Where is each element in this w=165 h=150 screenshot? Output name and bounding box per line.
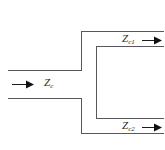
cavity-back-wall <box>97 47 165 119</box>
label-input-impedance: Zc <box>44 77 53 90</box>
waveguide-junction-figure: Zc Zc1 Zc2 <box>0 0 164 150</box>
label-upper-branch-impedance-subscript: c1 <box>128 38 135 46</box>
input-propagation-arrow <box>12 81 34 89</box>
upper-output-propagation-arrow <box>142 37 162 45</box>
label-upper-branch-impedance: Zc1 <box>122 33 135 46</box>
label-lower-branch-impedance: Zc2 <box>122 120 135 133</box>
waveguide-geometry-svg <box>0 0 164 150</box>
label-input-impedance-subscript: c <box>50 82 53 90</box>
outer-wall-lower <box>8 99 164 134</box>
label-lower-branch-impedance-subscript: c2 <box>128 125 135 133</box>
outer-wall-upper <box>8 32 164 71</box>
lower-output-propagation-arrow <box>142 124 162 132</box>
